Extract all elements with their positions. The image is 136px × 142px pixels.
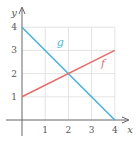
y-axis-label: y xyxy=(10,7,17,18)
chart: 12341234xygf xyxy=(0,0,136,142)
x-tick-label: 2 xyxy=(66,125,72,135)
y-tick-label: 1 xyxy=(11,92,17,102)
y-tick-label: 2 xyxy=(11,69,17,79)
x-tick-label: 3 xyxy=(89,125,95,135)
series-label-f: f xyxy=(100,57,107,70)
x-tick-label: 1 xyxy=(42,125,48,135)
line-chart: 12341234xygf xyxy=(0,0,136,142)
y-tick-label: 3 xyxy=(11,45,17,55)
y-tick-label: 4 xyxy=(11,22,17,32)
x-axis-label: x xyxy=(127,124,133,135)
series-label-g: g xyxy=(57,36,64,49)
x-tick-label: 4 xyxy=(112,125,118,135)
